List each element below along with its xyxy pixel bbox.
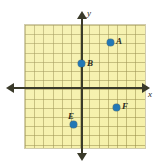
data-point-label-f: F — [122, 102, 128, 111]
data-point-label-b: B — [87, 59, 93, 68]
data-point-a — [107, 39, 114, 46]
y-axis-label: y — [87, 9, 91, 18]
data-point-label-e: E — [68, 112, 74, 121]
y-axis-arrow-down-icon — [77, 153, 87, 161]
y-axis-line — [81, 18, 83, 155]
y-axis-arrow-up-icon — [77, 11, 87, 19]
data-point-label-a: A — [116, 37, 122, 46]
data-point-b — [78, 60, 85, 67]
x-axis-label: x — [148, 90, 152, 99]
coordinate-plane-figure: x y ABEF — [0, 0, 161, 163]
x-axis-line — [12, 87, 144, 89]
x-axis-arrow-left-icon — [6, 83, 14, 93]
data-point-f — [113, 104, 120, 111]
data-point-e — [70, 121, 77, 128]
